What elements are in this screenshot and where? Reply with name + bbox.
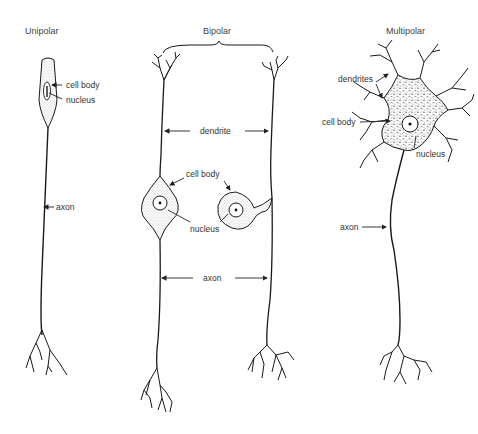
multipolar-axon-label: axon [340,223,358,232]
bipolar-neuron-right [218,56,294,380]
unipolar-title: Unipolar [25,27,59,36]
unipolar-axon [41,128,48,335]
bipolar-bracket [163,41,273,53]
unipolar-terminals [26,330,67,375]
multipolar-terminals [380,345,432,384]
bipolar-right-dendrites [262,56,288,80]
neuron-drawing [0,0,478,434]
multipolar-axon [390,150,404,345]
unipolar-axon-label: axon [56,203,74,212]
bipolar-right-dendrite-shaft [271,80,274,198]
bipolar-left-axon [157,240,161,368]
bipolar-axon-label: axon [203,274,221,283]
bipolar-left-terminals [141,368,172,412]
bipolar-right-axon [267,198,272,345]
bipolar-cell-body-label: cell body [186,170,220,179]
unipolar-cell-body-label: cell body [66,81,100,90]
unipolar-nucleus-label: nucleus [66,96,95,105]
bipolar-right-terminals [248,345,294,380]
unipolar-neuron [26,58,67,375]
multipolar-cell-body [382,75,448,151]
multipolar-neuron [352,40,474,384]
bipolar-neuron-left [141,52,180,412]
bipolar-left-dendrites [152,52,180,80]
multipolar-dendrites-label: dendrites [338,75,373,84]
multipolar-cell-body-label: cell body [322,118,356,127]
multipolar-title: Multipolar [386,27,425,36]
bipolar-left-dendrite-shaft [160,80,164,176]
neuron-types-diagram: Unipolar cell body nucleus axon Bipolar … [0,0,478,434]
multipolar-nucleus-label: nucleus [416,150,445,159]
bipolar-nucleus-label: nucleus [190,225,219,234]
bipolar-right-cell-body [218,192,272,229]
bipolar-title: Bipolar [203,27,231,36]
bipolar-dendrite-label: dendrite [200,127,231,136]
